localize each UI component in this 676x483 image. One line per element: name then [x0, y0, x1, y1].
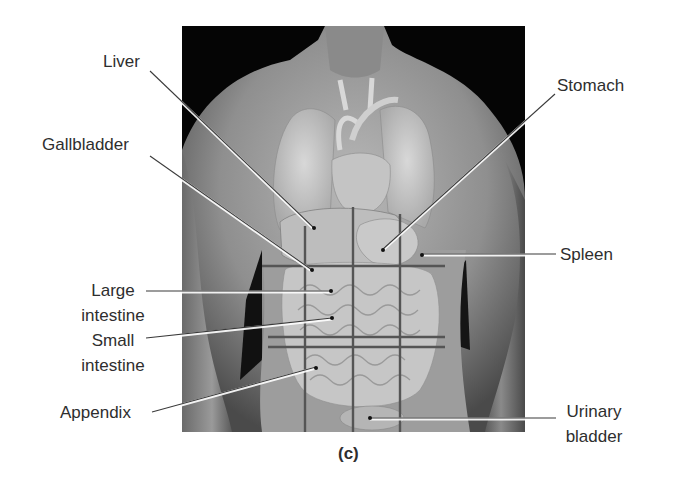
label-appendix-text: Appendix	[60, 400, 131, 425]
label-stomach-text: Stomach	[557, 73, 624, 98]
label-liver-text: Liver	[103, 49, 140, 74]
label-urinary-bladder-line2: bladder	[556, 424, 632, 449]
label-spleen-text: Spleen	[560, 242, 613, 267]
label-large-intestine-line2: intestine	[72, 303, 154, 328]
label-gallbladder-text: Gallbladder	[42, 132, 129, 157]
label-stomach: Stomach	[557, 73, 624, 98]
label-small-intestine-line2: intestine	[72, 353, 154, 378]
label-appendix: Appendix	[60, 400, 131, 425]
label-urinary-bladder: Urinary bladder	[556, 399, 632, 449]
anatomy-figure: Liver Gallbladder Stomach Spleen Large i…	[0, 0, 676, 483]
label-spleen: Spleen	[560, 242, 613, 267]
label-small-intestine: Small intestine	[72, 328, 154, 378]
figure-caption: (c)	[338, 444, 359, 464]
label-small-intestine-line1: Small	[72, 328, 154, 353]
label-large-intestine: Large intestine	[72, 278, 154, 328]
label-gallbladder: Gallbladder	[42, 132, 129, 157]
torso-illustration	[182, 26, 525, 432]
label-urinary-bladder-line1: Urinary	[556, 399, 632, 424]
label-large-intestine-line1: Large	[72, 278, 154, 303]
label-liver: Liver	[103, 49, 140, 74]
